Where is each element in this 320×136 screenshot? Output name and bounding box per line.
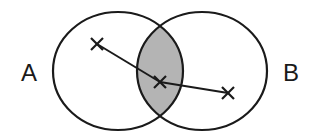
set-b-label: B [283,59,299,86]
x-marker-a [91,38,103,50]
set-a-label: A [21,59,37,86]
venn-diagram: A B [0,0,320,136]
